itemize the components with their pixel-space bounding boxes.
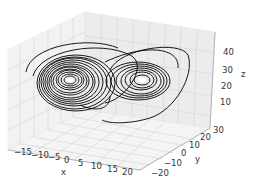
x-tick: −10 (31, 150, 49, 160)
y-tick: −20 (151, 168, 169, 178)
z-tick: 20 (221, 81, 232, 91)
x-tick: 10 (91, 161, 102, 171)
lorenz-3d-plot: −15 −10 −5 0 5 10 15 20 x −20 −10 0 10 2… (0, 0, 256, 185)
z-tick: 40 (223, 47, 234, 57)
y-tick: −10 (164, 158, 182, 168)
right-fixed-point (138, 78, 146, 83)
y-tick: 30 (213, 125, 224, 135)
x-tick: −15 (14, 147, 32, 157)
x-axis-label: x (61, 167, 66, 177)
y-axis-label: y (195, 154, 200, 164)
left-fixed-point (67, 78, 73, 82)
y-tick: 0 (181, 148, 186, 158)
z-axis-label: z (241, 69, 246, 79)
x-tick: −5 (48, 152, 61, 162)
x-tick: 20 (122, 167, 133, 177)
x-tick: 0 (64, 155, 69, 165)
z-tick: 10 (220, 97, 231, 107)
x-tick: 5 (78, 158, 83, 168)
z-tick: 30 (222, 65, 233, 75)
y-tick: 20 (200, 132, 211, 142)
y-tick: 10 (189, 140, 200, 150)
x-tick: 15 (107, 164, 118, 174)
z-axis-ticks: 10 20 30 40 (220, 47, 234, 107)
